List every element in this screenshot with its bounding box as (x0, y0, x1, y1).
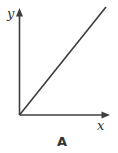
axes-plot: y x A (0, 0, 118, 153)
graph-figure: y x A (0, 0, 118, 153)
figure-caption: A (57, 134, 67, 149)
y-axis-arrowhead-icon (16, 8, 23, 17)
diagonal-line (20, 7, 107, 115)
x-axis-label: x (97, 118, 105, 133)
y-axis-label: y (6, 6, 15, 21)
